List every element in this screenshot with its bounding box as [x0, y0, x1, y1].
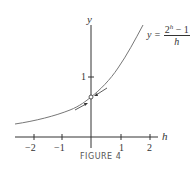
- x-tick-label-neg1: −1: [54, 143, 65, 153]
- y-axis-label: y: [87, 14, 92, 25]
- equation-numerator: 2h − 1: [164, 22, 190, 36]
- equation-lhs: y =: [147, 29, 161, 40]
- equation-fraction: 2h − 1 h: [164, 22, 190, 47]
- function-curve: [15, 25, 143, 124]
- numerator-rest: − 1: [173, 24, 189, 35]
- figure-caption: FIGURE 4: [80, 152, 121, 161]
- equation-label: y = 2h − 1 h: [147, 22, 190, 47]
- y-tick-label-1: 1: [81, 72, 86, 82]
- x-tick-label-neg2: −2: [25, 143, 36, 153]
- x-tick-label-2: 2: [147, 143, 152, 153]
- equation-denominator: h: [174, 36, 179, 47]
- open-circle-hole: [89, 95, 93, 99]
- h-axis-label: h: [162, 131, 168, 142]
